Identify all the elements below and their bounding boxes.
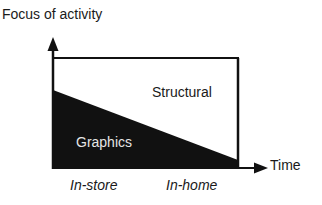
graphics-region <box>53 90 238 169</box>
structural-region-label: Structural <box>152 84 212 100</box>
x-axis-label: Time <box>270 157 301 173</box>
graphics-region-label: Graphics <box>76 134 132 150</box>
x-axis-arrow-icon <box>254 163 268 174</box>
x-category-in-store: In-store <box>70 177 117 193</box>
x-category-in-home: In-home <box>166 177 217 193</box>
y-axis-label: Focus of activity <box>2 6 102 22</box>
y-axis-arrow-icon <box>48 37 59 51</box>
diagram-canvas <box>0 0 322 205</box>
